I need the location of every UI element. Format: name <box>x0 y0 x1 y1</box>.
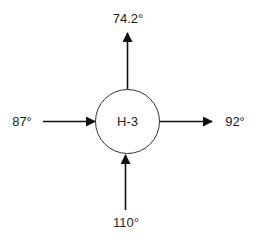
flow-left-in: 87° <box>12 114 95 129</box>
flow-label-top: 74.2° <box>113 11 144 26</box>
flow-label-left: 87° <box>12 114 32 129</box>
flow-diagram: H-3 74.2° 87° 92° 110° <box>0 0 257 242</box>
node-label: H-3 <box>117 114 138 129</box>
node-h3: H-3 <box>96 90 160 154</box>
flow-right-out: 92° <box>160 114 245 129</box>
flow-label-right: 92° <box>225 114 245 129</box>
flow-bottom-in: 110° <box>113 155 139 230</box>
flow-label-bottom: 110° <box>113 215 139 230</box>
flow-top-out: 74.2° <box>113 11 144 89</box>
